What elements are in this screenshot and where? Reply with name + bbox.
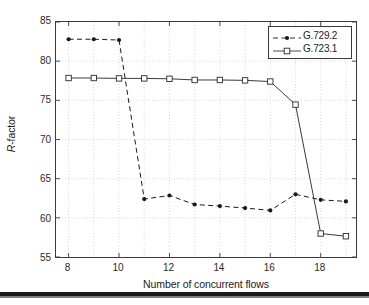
y-tick-label: 85 [29,16,51,26]
legend-item-g7231: G.723.1 [272,42,348,55]
y-axis-title-italic-r: R [5,145,17,152]
legend-label: G.729.2 [303,30,337,42]
x-axis-tick-labels: 81012141618 [0,263,369,277]
y-tick-label: 65 [29,174,51,184]
legend-swatch-dashed-dot [272,30,302,42]
y-axis-title: R-factor [5,107,17,161]
legend-label: G.723.1 [303,43,337,55]
page-divider-rule-shadow [0,296,369,298]
legend-item-g7292: G.729.2 [272,29,348,42]
y-tick-label: 70 [29,135,51,145]
x-tick-label: 12 [156,263,180,273]
y-axis-tick-labels: 85 80 75 70 65 60 55 [26,0,51,305]
x-tick-label: 18 [308,263,332,273]
x-tick-label: 14 [207,263,231,273]
y-axis-title-wrap: R-factor [2,106,20,176]
y-axis-title-rest: -factor [5,116,17,145]
y-tick-label: 80 [29,56,51,66]
x-tick-label: 10 [106,263,130,273]
x-tick-label: 16 [257,263,281,273]
y-tick-label: 55 [29,253,51,263]
figure: 85 80 75 70 65 60 55 R-factor 8101214161… [0,0,369,305]
data-series [66,37,349,239]
legend-swatch-solid-square [272,43,302,55]
x-tick-label: 8 [56,263,80,273]
x-axis-title: Number of concurrent flows [55,278,357,290]
legend: G.729.2 G.723.1 [268,26,352,59]
y-tick-label: 60 [29,214,51,224]
y-tick-label: 75 [29,95,51,105]
